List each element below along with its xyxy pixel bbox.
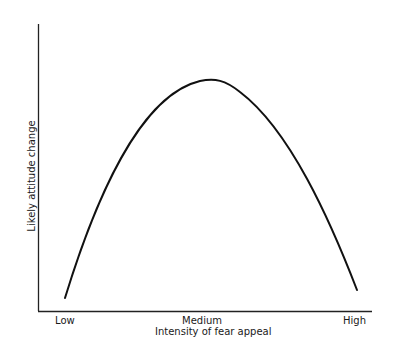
y-axis-label: Likely attitude change <box>26 120 37 231</box>
x-tick-medium: Medium <box>182 315 222 326</box>
x-axis-label: Intensity of fear appeal <box>155 326 272 337</box>
inverted-u-curve <box>65 80 357 298</box>
chart-canvas <box>0 0 399 354</box>
x-tick-low: Low <box>55 315 75 326</box>
x-tick-high: High <box>343 315 366 326</box>
